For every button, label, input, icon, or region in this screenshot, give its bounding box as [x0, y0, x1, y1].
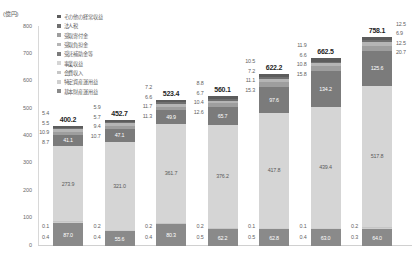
- chart-legend: その他の経常収益法人税受取寄付金受取負担金受託補助金等事業収益会費収入特定資産運…: [57, 12, 103, 96]
- segment-value-label: 47.1: [105, 132, 135, 138]
- bar-segment: 63.0: [311, 229, 341, 246]
- legend-item-4[interactable]: 受託補助金等: [57, 49, 103, 58]
- legend-swatch-icon: [57, 33, 61, 37]
- legend-label: 基本財産運用益: [64, 88, 98, 95]
- legend-swatch-icon: [57, 52, 61, 56]
- bar-segment: 125.6: [362, 51, 392, 85]
- segment-value-label: 65.7: [208, 113, 238, 119]
- callout-value-label: 11.1: [237, 77, 255, 83]
- y-tick-500: 500: [8, 105, 32, 111]
- callout-value-label: 12.5: [396, 40, 414, 46]
- bar-segment: 49.9: [156, 110, 186, 124]
- bar-total-label: 662.5: [303, 48, 349, 55]
- bar-segment: 321.0: [105, 142, 135, 230]
- callout-value-label: 10.9: [31, 129, 49, 135]
- legend-item-0[interactable]: その他の経常収益: [57, 12, 103, 21]
- legend-swatch-icon: [57, 80, 61, 84]
- segment-value-label: 63.0: [311, 235, 341, 241]
- callout-value-label: 0.3: [340, 234, 358, 240]
- segment-value-label: 49.9: [156, 114, 186, 120]
- callout-value-label: 0.2: [340, 223, 358, 229]
- bar-segment: 361.7: [156, 124, 186, 223]
- legend-item-5[interactable]: 事業収益: [57, 58, 103, 67]
- segment-value-label: 80.3: [156, 232, 186, 238]
- bar-segment: 273.9: [53, 146, 83, 221]
- callout-value-label: 0.2: [83, 223, 101, 229]
- segment-value-label: 87.0: [53, 232, 83, 238]
- callout-value-label: 15.3: [237, 87, 255, 93]
- bar-stack: 49.9361.780.3: [156, 100, 186, 245]
- bar-segment: 62.2: [208, 229, 238, 246]
- callout-value-label: 5.9: [83, 104, 101, 110]
- bar-segment: 134.2: [311, 71, 341, 108]
- callout-value-label: 10.8: [289, 61, 307, 67]
- callout-value-label: 6.6: [134, 94, 152, 100]
- bar-segment: 80.3: [156, 224, 186, 246]
- y-tick-700: 700: [8, 50, 32, 56]
- callout-value-label: 7.2: [134, 84, 152, 90]
- callout-value-label: 10.5: [237, 58, 255, 64]
- legend-label: 受取寄付金: [64, 32, 89, 39]
- bar-segment: 55.6: [105, 231, 135, 246]
- bar-segment: 417.8: [259, 113, 289, 227]
- legend-swatch-icon: [57, 15, 61, 19]
- legend-item-7[interactable]: 特定資産運用益: [57, 77, 103, 86]
- callout-value-label: 15.8: [289, 71, 307, 77]
- callout-value-label: 11.9: [289, 42, 307, 48]
- callout-value-label: 10.4: [186, 99, 204, 105]
- bar-segment: 97.6: [259, 87, 289, 114]
- legend-label: その他の経常収益: [64, 13, 103, 20]
- bar-stack: 97.6417.862.8: [259, 74, 289, 245]
- segment-value-label: 417.8: [259, 167, 289, 173]
- bar-segment: 517.8: [362, 86, 392, 228]
- callout-value-label: 5.7: [83, 114, 101, 120]
- y-tick-400: 400: [8, 132, 32, 138]
- bar-segment: 439.4: [311, 107, 341, 227]
- legend-swatch-icon: [57, 43, 61, 47]
- legend-label: 事業収益: [64, 60, 84, 67]
- legend-label: 法人税: [64, 22, 79, 29]
- bar-stack: 65.7376.262.2: [208, 96, 238, 245]
- callout-value-label: 20.7: [396, 49, 414, 55]
- bar-stack: 125.6517.864.0: [362, 37, 392, 245]
- segment-value-label: 273.9: [53, 181, 83, 187]
- callout-value-label: 10.7: [83, 133, 101, 139]
- callout-value-label: 0.4: [289, 234, 307, 240]
- segment-value-label: 41.1: [53, 137, 83, 143]
- bar-segment: 87.0: [53, 223, 83, 247]
- callout-value-label: 12.6: [186, 109, 204, 115]
- segment-value-label: 64.0: [362, 235, 392, 241]
- callout-value-label: 0.4: [83, 234, 101, 240]
- legend-label: 会費収入: [64, 69, 84, 76]
- segment-value-label: 439.4: [311, 164, 341, 170]
- legend-swatch-icon: [57, 61, 61, 65]
- legend-item-3[interactable]: 受取負担金: [57, 40, 103, 49]
- callout-value-label: 12.5: [396, 21, 414, 27]
- legend-item-8[interactable]: 基本財産運用益: [57, 86, 103, 95]
- legend-label: 受取負担金: [64, 41, 89, 48]
- callout-value-label: 0.2: [134, 223, 152, 229]
- legend-item-2[interactable]: 受取寄付金: [57, 31, 103, 40]
- segment-value-label: 125.6: [362, 65, 392, 71]
- bar-total-label: 758.1: [354, 27, 400, 34]
- callout-value-label: 8.7: [31, 139, 49, 145]
- callout-value-label: 0.1: [237, 223, 255, 229]
- legend-swatch-icon: [57, 89, 61, 93]
- segment-value-label: 361.7: [156, 170, 186, 176]
- y-axis-line: [38, 26, 39, 245]
- legend-item-6[interactable]: 会費収入: [57, 68, 103, 77]
- bar-segment: 65.7: [208, 107, 238, 125]
- y-axis-unit-label: (億円): [3, 9, 18, 18]
- stacked-bar-chart: (億円) 8007006005004003002001000 その他の経常収益法…: [0, 0, 415, 280]
- callout-value-label: 7.2: [237, 68, 255, 74]
- callout-value-label: 6.9: [396, 30, 414, 36]
- legend-item-1[interactable]: 法人税: [57, 21, 103, 30]
- callout-value-label: 9.4: [83, 123, 101, 129]
- bar-segment: 41.1: [53, 135, 83, 146]
- callout-value-label: 0.4: [31, 234, 49, 240]
- callout-value-label: 5.4: [31, 110, 49, 116]
- bar-segment: 62.8: [259, 229, 289, 246]
- callout-value-label: 11.7: [134, 103, 152, 109]
- legend-swatch-icon: [57, 24, 61, 28]
- bar-stack: 47.1321.055.6: [105, 120, 135, 245]
